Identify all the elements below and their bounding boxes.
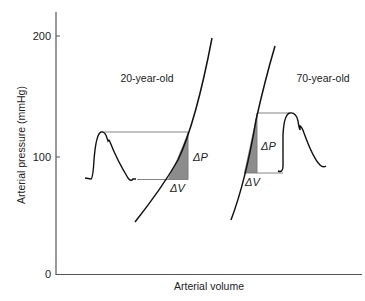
old-pressure-waveform: [278, 113, 326, 172]
old-delta-v: ΔV: [244, 176, 261, 188]
young-label: 20-year-old: [120, 72, 173, 84]
young-delta-p: ΔP: [192, 151, 208, 163]
y-tick-label-0: 0: [45, 268, 51, 280]
pressure-volume-diagram: 200 100 0 Arterial pressure (mmHg) Arter…: [0, 0, 365, 301]
old-label: 70-year-old: [296, 72, 349, 84]
y-tick-label-100: 100: [33, 151, 51, 163]
y-tick-label-200: 200: [33, 30, 51, 42]
old-delta-p: ΔP: [260, 140, 276, 152]
young-delta-v: ΔV: [169, 182, 186, 194]
young-pressure-waveform: [85, 132, 136, 180]
x-axis-label: Arterial volume: [174, 280, 244, 292]
young-compliance-curve: [135, 38, 212, 222]
y-axis-label: Arterial pressure (mmHg): [15, 86, 27, 204]
old-compliance-curve: [231, 46, 275, 220]
